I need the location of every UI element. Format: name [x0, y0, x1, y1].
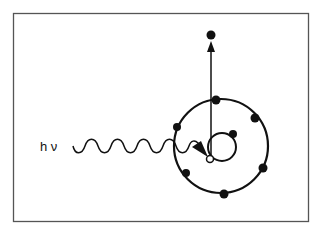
outer-shell	[174, 99, 268, 193]
photon-wave	[73, 139, 205, 154]
electron	[259, 164, 268, 173]
electron-vacancy	[207, 156, 214, 163]
electron	[220, 190, 229, 199]
electron	[212, 96, 221, 105]
inner-electron	[229, 130, 237, 138]
ejection-arrowhead-icon	[207, 41, 215, 52]
photon-arrowhead-icon	[192, 141, 208, 157]
photoelectric-diagram: h ν	[0, 0, 322, 236]
diagram-frame	[14, 14, 309, 222]
electron	[173, 123, 181, 131]
ejected-electron	[207, 31, 216, 40]
photon-label: h ν	[40, 139, 57, 154]
electron	[182, 169, 190, 177]
electron	[251, 114, 260, 123]
